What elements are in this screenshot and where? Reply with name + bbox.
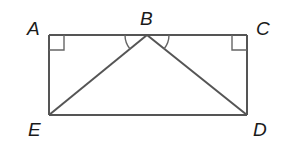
label-c: C <box>256 18 270 39</box>
label-d: D <box>253 119 267 140</box>
angle-mark-abe <box>125 35 130 49</box>
label-a: A <box>26 18 40 39</box>
right-angle-mark-c <box>232 35 247 50</box>
right-angle-mark-a <box>49 35 64 50</box>
label-b: B <box>140 8 153 29</box>
angle-mark-cbd <box>164 35 169 49</box>
geometry-diagram: A B C D E <box>0 0 292 147</box>
label-e: E <box>28 119 41 140</box>
